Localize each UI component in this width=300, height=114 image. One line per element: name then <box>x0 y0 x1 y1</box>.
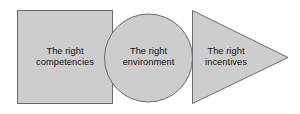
shape-layer <box>0 0 300 114</box>
square-shape-competencies <box>18 11 113 104</box>
triangle-shape-incentives <box>193 11 289 104</box>
circle-shape-environment <box>105 14 193 102</box>
diagram-canvas: The right competencies The right environ… <box>0 0 300 114</box>
